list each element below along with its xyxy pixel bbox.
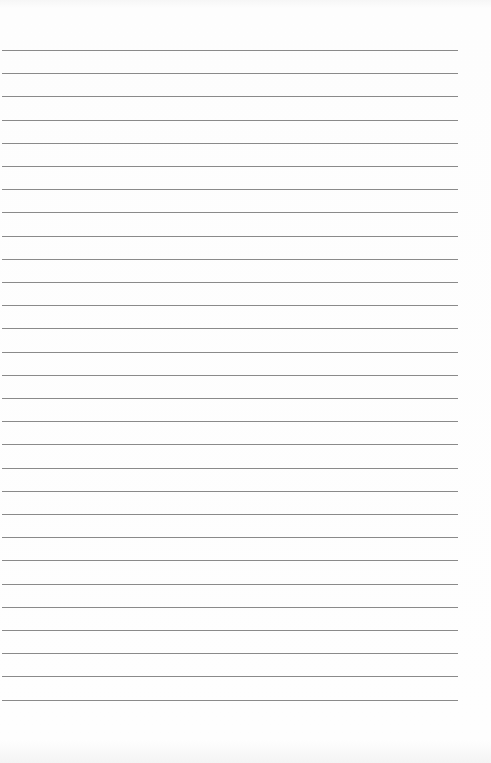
ruled-line — [2, 560, 458, 561]
ruled-line — [2, 352, 458, 353]
ruled-line — [2, 305, 458, 306]
ruled-line — [2, 421, 458, 422]
ruled-line — [2, 491, 458, 492]
ruled-line — [2, 120, 458, 121]
ruled-line — [2, 166, 458, 167]
ruled-line — [2, 143, 458, 144]
ruled-line — [2, 468, 458, 469]
ruled-line — [2, 653, 458, 654]
ruled-line — [2, 259, 458, 260]
ruled-line — [2, 676, 458, 677]
ruled-line — [2, 398, 458, 399]
ruled-line — [2, 282, 458, 283]
ruled-line — [2, 700, 458, 701]
ruled-line — [2, 212, 458, 213]
ruled-line — [2, 584, 458, 585]
ruled-line — [2, 537, 458, 538]
ruled-line — [2, 514, 458, 515]
lined-paper-sheet — [0, 0, 491, 763]
ruled-line — [2, 328, 458, 329]
ruled-line — [2, 96, 458, 97]
ruled-line — [2, 50, 458, 51]
ruled-line — [2, 73, 458, 74]
ruled-line — [2, 444, 458, 445]
ruled-line — [2, 630, 458, 631]
ruled-line — [2, 189, 458, 190]
ruled-line — [2, 236, 458, 237]
ruled-line — [2, 375, 458, 376]
ruled-line — [2, 607, 458, 608]
